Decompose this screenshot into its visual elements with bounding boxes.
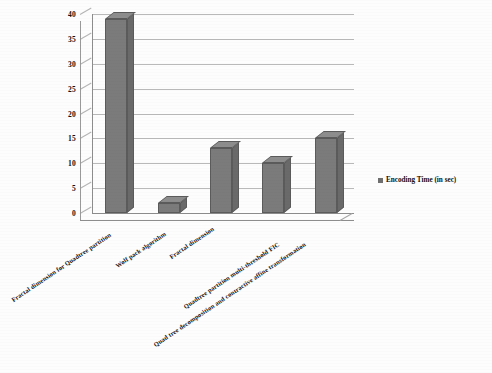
legend-label-encoding-time: Encoding Time (in sec) xyxy=(386,176,456,184)
y-axis-tick-labels: 40 35 30 25 20 15 10 5 0 xyxy=(48,14,76,213)
bar-3 xyxy=(210,148,232,213)
gridline-0 xyxy=(92,213,354,214)
x-label-1: Fractal dimension for Quadtree partition xyxy=(10,231,112,303)
bar-2 xyxy=(158,203,180,213)
bar-front-face xyxy=(315,138,337,213)
bar-series-encoding-time xyxy=(92,14,354,213)
y-tick-10: 10 xyxy=(52,159,76,168)
depth-edge-15 xyxy=(80,132,92,139)
y-tick-25: 25 xyxy=(52,85,76,94)
x-label-2: Wolf pack algorithm xyxy=(114,230,167,269)
bar-front-face xyxy=(105,19,127,213)
y-tick-35: 35 xyxy=(52,35,76,44)
x-label-4: Quadtree partition multi-threshold FIC xyxy=(182,240,280,310)
legend: Encoding Time (in sec) xyxy=(378,176,456,184)
bar-side-face xyxy=(337,133,344,213)
depth-edge-0 xyxy=(80,207,92,214)
x-axis-line xyxy=(80,220,354,221)
x-label-3: Fractal dimension xyxy=(168,225,215,260)
bar-side-face xyxy=(232,142,239,213)
y-tick-20: 20 xyxy=(52,110,76,119)
x-label-5: Quad tree decomposition and contractive … xyxy=(152,240,307,348)
y-tick-5: 5 xyxy=(52,184,76,193)
y-tick-30: 30 xyxy=(52,60,76,69)
bar-4 xyxy=(262,163,284,213)
bar-1 xyxy=(105,19,127,213)
depth-edge-20 xyxy=(80,107,92,114)
bar-front-face xyxy=(210,148,232,213)
bar-5 xyxy=(315,138,337,213)
y-tick-40: 40 xyxy=(52,10,76,19)
depth-edge-35 xyxy=(80,32,92,39)
depth-edge-30 xyxy=(80,57,92,64)
y-axis-front-line xyxy=(80,21,81,220)
depth-edge-25 xyxy=(80,82,92,89)
y-tick-0: 0 xyxy=(52,209,76,218)
y-tick-15: 15 xyxy=(52,134,76,143)
depth-edge-10 xyxy=(80,157,92,164)
depth-edge-40 xyxy=(80,8,92,15)
bar-front-face xyxy=(262,163,284,213)
bar-chart-figure: 40 35 30 25 20 15 10 5 0 Fractal dimensi… xyxy=(0,0,492,373)
legend-swatch-icon xyxy=(378,178,383,183)
bar-side-face xyxy=(127,13,134,213)
bar-front-face xyxy=(158,203,180,213)
bar-side-face xyxy=(284,157,291,213)
depth-edge-5 xyxy=(80,182,92,189)
